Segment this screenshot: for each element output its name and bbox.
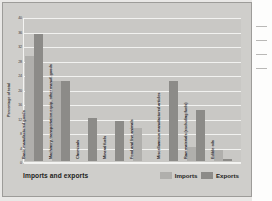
screenshot-root: Percentage of total 0481216202428323640 …: [0, 0, 272, 201]
gridline: [24, 163, 241, 164]
y-tick-label: 36: [18, 31, 22, 35]
category-label: Raw materials (excluding fuels): [183, 102, 188, 159]
category-label: Chemicals: [75, 140, 80, 159]
y-tick-label: 0: [20, 161, 22, 165]
bar-imports: [133, 128, 142, 161]
chart-footer: Imports and exports Imports Exports: [23, 169, 239, 189]
legend-item-imports: Imports: [160, 172, 197, 179]
bar-exports: [115, 121, 124, 161]
category-label: Machinery, transportation equip, other m…: [48, 64, 53, 159]
y-tick-label: 24: [18, 74, 22, 78]
category-label: Basic manufactured goods: [21, 110, 26, 159]
y-tick-label: 40: [18, 16, 22, 20]
bar-imports: [25, 56, 34, 161]
chart-card: Percentage of total 0481216202428323640 …: [2, 2, 252, 197]
bar-group: Edible oils: [214, 18, 241, 161]
y-tick-label: 28: [18, 60, 22, 64]
bar-exports: [88, 118, 97, 162]
category-label: Miscellaneous manufactured articles: [156, 93, 161, 159]
legend-swatch-imports: [160, 172, 172, 179]
y-axis-label: Percentage of total: [7, 82, 11, 116]
bar-exports: [61, 81, 70, 161]
legend-label-imports: Imports: [175, 172, 198, 179]
bar-exports: [223, 159, 232, 161]
bar-imports: [52, 81, 61, 161]
y-tick-label: 20: [18, 89, 22, 93]
category-label: Edible oils: [210, 140, 215, 159]
legend-swatch-exports: [201, 172, 213, 179]
page-edge: [252, 0, 272, 201]
legend-item-exports: Exports: [201, 172, 239, 179]
category-label: Mineral fuels: [102, 136, 107, 159]
bar-exports: [34, 34, 43, 161]
y-tick-label: 32: [18, 45, 22, 49]
y-tick-label: 16: [18, 103, 22, 107]
legend-label-exports: Exports: [216, 172, 239, 179]
bar-imports: [214, 150, 223, 161]
bar-groups: Basic manufactured goodsMachinery, trans…: [25, 18, 241, 161]
category-label: Food and live animals: [129, 119, 134, 159]
chart-legend: Imports Exports: [160, 172, 239, 179]
plot-area: 0481216202428323640 Basic manufactured g…: [23, 18, 241, 163]
bar-imports: [187, 147, 196, 162]
chart-title: Imports and exports: [23, 172, 88, 179]
bar-exports: [196, 110, 205, 161]
bar-exports: [169, 81, 178, 161]
